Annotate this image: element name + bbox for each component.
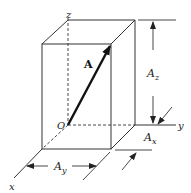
svg-text:x: x — [152, 137, 157, 146]
origin-label: O — [57, 120, 65, 131]
box-edge — [111, 20, 135, 44]
z-axis-label: z — [65, 9, 72, 20]
svg-text:z: z — [154, 73, 160, 82]
x-axis-label: x — [9, 181, 15, 192]
ay-label: A y — [53, 160, 67, 175]
ax-label: A x — [143, 131, 157, 146]
ay-dimension — [27, 152, 110, 180]
svg-text:A: A — [146, 67, 155, 80]
az-label: A z — [146, 67, 160, 82]
az-dimension — [138, 20, 176, 123]
box-edge — [111, 125, 135, 149]
ax-arrow-bottom — [122, 153, 136, 170]
y-axis-label: y — [177, 120, 184, 131]
svg-text:y: y — [61, 166, 67, 175]
ax-arrow-top — [158, 107, 172, 124]
svg-text:A: A — [143, 131, 152, 144]
box-front-face — [42, 44, 111, 149]
svg-text:A: A — [53, 160, 62, 173]
x-axis — [14, 149, 42, 178]
hidden-edges — [42, 18, 135, 149]
box-edge — [42, 20, 68, 44]
vector-box-diagram: z y x O A A z A x A y — [0, 0, 191, 193]
vector-a-label: A — [83, 58, 93, 71]
